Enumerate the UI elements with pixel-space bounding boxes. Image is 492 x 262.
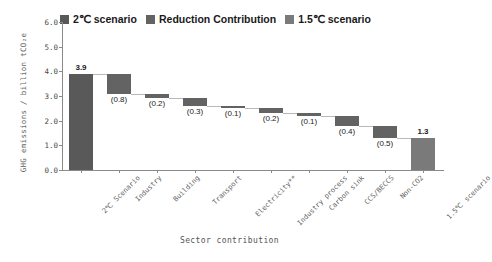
y-axis-tick-mark [59, 121, 63, 122]
bar-value-label-1: 3.9 [75, 63, 86, 72]
y-axis-tick-mark [59, 145, 63, 146]
y-axis-tick-label: 2.0 [44, 116, 58, 125]
bar-value-label-9: (0.5) [377, 139, 393, 148]
x-axis-tick-mark [271, 170, 272, 173]
x-axis-tick-mark [233, 170, 234, 173]
bar-value-label-2: (0.8) [111, 95, 127, 104]
x-axis-category-label: Industry process [296, 174, 349, 227]
x-axis-category-label: 1.5℃ scenario [445, 174, 492, 221]
x-axis-category-label: Carbon sink [328, 174, 366, 212]
bar-value-label-3: (0.2) [149, 99, 165, 108]
x-axis-tick-mark [119, 170, 120, 173]
y-axis-tick-mark [59, 22, 63, 23]
bar-5 [221, 106, 245, 109]
x-axis-tick-mark [309, 170, 310, 173]
x-axis-tick-mark [195, 170, 196, 173]
bar-value-label-7: (0.1) [301, 117, 317, 126]
x-axis-category-label: Building [172, 174, 201, 203]
bar-value-label-4: (0.3) [187, 107, 203, 116]
y-axis-tick-label: 4.0 [44, 67, 58, 76]
bar-8 [335, 116, 359, 126]
bar-1 [69, 74, 93, 170]
x-axis-tick-mark [81, 170, 82, 173]
y-axis-tick-label: 1.0 [44, 141, 58, 150]
x-axis-tick-mark [157, 170, 158, 173]
bar-7 [297, 113, 321, 116]
bar-value-label-8: (0.4) [339, 127, 355, 136]
connector-line [169, 98, 183, 99]
connector-line [321, 116, 335, 117]
plot-area: 0.01.02.03.04.05.06.03.9(0.8)(0.2)(0.3)(… [62, 22, 442, 170]
x-axis-category-label: Non-CO2 [399, 174, 426, 201]
x-axis-title: Sector contribution [0, 236, 459, 245]
y-axis-tick-mark [59, 96, 63, 97]
connector-line [283, 113, 297, 114]
x-axis-category-label: Electricity** [254, 174, 298, 218]
connector-line [131, 94, 145, 95]
y-axis-tick-mark [59, 71, 63, 72]
y-axis-tick-label: 6.0 [44, 18, 58, 27]
connector-line [397, 138, 411, 139]
x-axis-category-label: Industry [134, 174, 163, 203]
bar-9 [373, 126, 397, 138]
bar-10 [411, 138, 435, 170]
bar-2 [107, 74, 131, 94]
y-axis-title: GHG emissions / billion tCO₂e [19, 28, 28, 178]
connector-line [207, 106, 221, 107]
x-axis-category-label: 2℃ Scenario [101, 174, 142, 215]
y-axis-tick-label: 5.0 [44, 42, 58, 51]
bar-value-label-5: (0.1) [225, 109, 241, 118]
y-axis-tick-mark [59, 47, 63, 48]
bar-4 [183, 98, 207, 105]
x-axis-category-label: CCS/BECCS [363, 174, 395, 206]
bar-value-label-6: (0.2) [263, 114, 279, 123]
x-axis-tick-mark [385, 170, 386, 173]
connector-line [93, 74, 107, 75]
y-axis-tick-mark [59, 170, 63, 171]
bar-6 [259, 108, 283, 113]
bar-value-label-10: 1.3 [417, 127, 428, 136]
connector-line [245, 108, 259, 109]
x-axis-tick-mark [347, 170, 348, 173]
bar-3 [145, 94, 169, 99]
connector-line [359, 126, 373, 127]
y-axis-tick-label: 0.0 [44, 166, 58, 175]
x-axis-category-label: Transport [211, 174, 243, 206]
x-axis-tick-mark [423, 170, 424, 173]
y-axis-tick-label: 3.0 [44, 92, 58, 101]
